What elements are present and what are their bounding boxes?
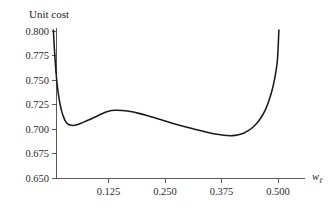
x-tick-label-3: 0.500 xyxy=(266,186,290,197)
y-tick-label-4: 0.700 xyxy=(25,124,49,135)
y-tick-label-3: 0.725 xyxy=(25,99,49,110)
x-axis-ticks xyxy=(109,179,279,184)
x-tick-label-2: 0.375 xyxy=(210,186,234,197)
chart-title: Unit cost xyxy=(29,8,69,20)
y-tick-label-2: 0.750 xyxy=(25,75,49,86)
x-axis-name: wℓ xyxy=(312,171,323,185)
x-tick-label-1: 0.250 xyxy=(153,186,177,197)
unit-cost-curve xyxy=(53,30,279,136)
x-axis-name-subscript: ℓ xyxy=(319,176,323,185)
y-tick-label-1: 0.775 xyxy=(25,50,49,61)
unit-cost-line-chart: 0.800 0.775 0.750 0.725 0.700 0.675 0.65… xyxy=(0,0,335,217)
y-tick-label-5: 0.675 xyxy=(25,148,49,159)
y-tick-label-0: 0.800 xyxy=(25,26,49,37)
x-tick-label-0: 0.125 xyxy=(97,186,121,197)
y-tick-label-6: 0.650 xyxy=(25,173,49,184)
chart-figure: 0.800 0.775 0.750 0.725 0.700 0.675 0.65… xyxy=(0,0,335,217)
x-axis-name-base: w xyxy=(312,171,319,182)
